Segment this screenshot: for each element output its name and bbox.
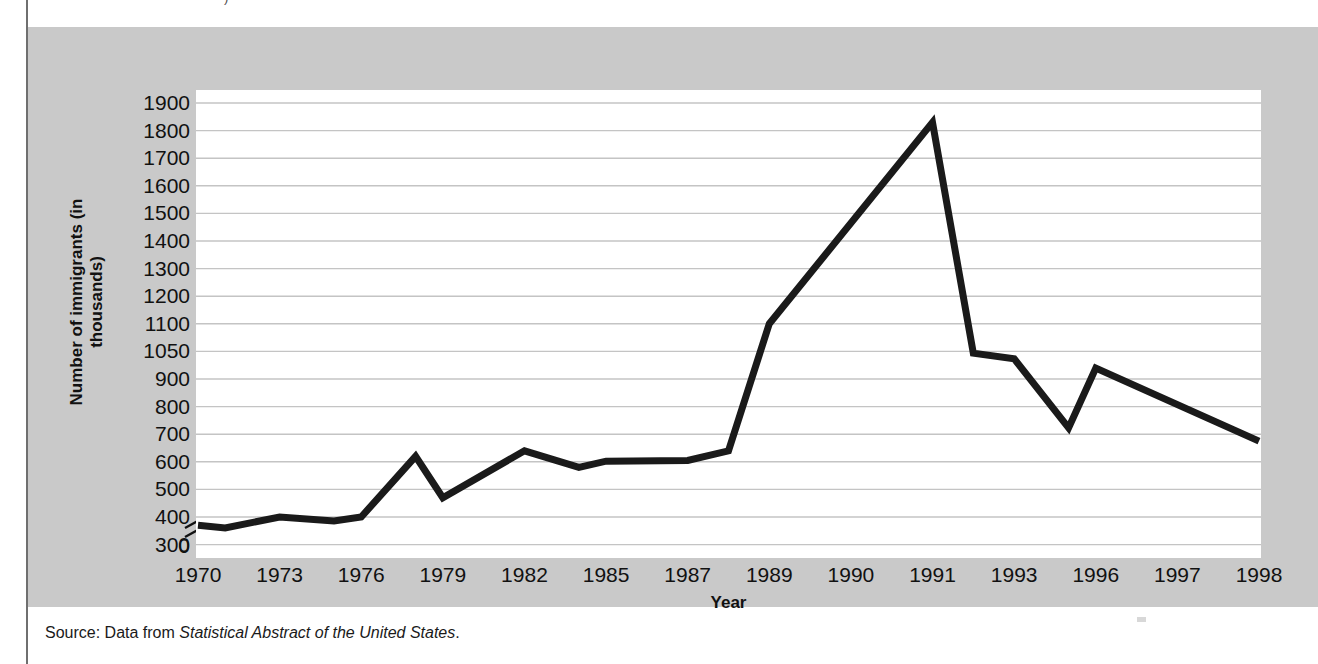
immigration-data-line — [198, 122, 1259, 528]
y-tick-label: 1800 — [143, 120, 190, 141]
x-tick-label: 1989 — [746, 563, 793, 587]
x-tick-label: 1979 — [419, 563, 466, 587]
y-tick-label: 800 — [155, 396, 190, 417]
plot-area — [196, 90, 1261, 558]
y-axis-title: Number of immigrants (in thousands) — [67, 182, 107, 422]
source-suffix: . — [455, 624, 459, 641]
x-tick-label: 1976 — [338, 563, 385, 587]
x-tick-label: 1996 — [1072, 563, 1119, 587]
y-tick-label: 1400 — [143, 230, 190, 251]
y-tick-label: 1050 — [143, 340, 190, 361]
y-tick-label: 500 — [155, 478, 190, 499]
x-tick-label: 1987 — [664, 563, 711, 587]
clipped-text-fragment: ) — [224, 0, 228, 5]
y-tick-label: 1100 — [145, 313, 190, 334]
y-axis-tick-labels: 1900180017001600150014001300120011001050… — [126, 82, 190, 562]
x-axis-title-text: Year — [711, 593, 747, 612]
y-tick-label: 1300 — [143, 258, 190, 279]
y-tick-label: 600 — [155, 451, 190, 472]
y-axis-title-text: Number of immigrants (in thousands) — [67, 199, 106, 406]
y-tick-label: 1500 — [143, 202, 190, 223]
y-tick-label: 700 — [155, 423, 190, 444]
x-tick-label: 1993 — [991, 563, 1038, 587]
y-tick-label: 1200 — [143, 285, 190, 306]
x-axis-tick-labels: 1970197319761979198219851987198919901991… — [196, 563, 1261, 591]
x-tick-label: 1998 — [1236, 563, 1283, 587]
x-tick-label: 1970 — [175, 563, 222, 587]
x-axis-title: Year — [196, 593, 1261, 613]
y-tick-label: 900 — [155, 368, 190, 389]
line-chart-svg — [196, 90, 1261, 558]
source-prefix: Source: Data from — [45, 624, 179, 641]
y-tick-label: 1900 — [143, 92, 190, 113]
page-speck — [1137, 617, 1146, 622]
gridlines — [196, 103, 1261, 558]
figure-top-strip: ) — [28, 0, 1318, 27]
y-tick-label: 1600 — [143, 175, 190, 196]
x-tick-label: 1990 — [828, 563, 875, 587]
y-tick-label: 1700 — [143, 147, 190, 168]
x-tick-label: 1973 — [256, 563, 303, 587]
x-tick-label: 1982 — [501, 563, 548, 587]
chart-panel: Number of immigrants (in thousands) 1900… — [28, 27, 1318, 607]
x-tick-label: 1991 — [909, 563, 956, 587]
x-tick-label: 1985 — [583, 563, 630, 587]
source-publication-title: Statistical Abstract of the United State… — [179, 624, 455, 641]
x-tick-label: 1997 — [1154, 563, 1201, 587]
source-note: Source: Data from Statistical Abstract o… — [45, 624, 460, 642]
